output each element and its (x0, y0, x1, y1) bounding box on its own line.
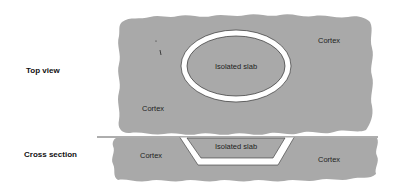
tissue-dot (155, 40, 156, 41)
cross-section-cortex-right-label: Cortex (318, 155, 340, 164)
cross-section-slab-label: Isolated slab (215, 142, 257, 151)
isolated-slab-diagram: Top view Cross section Isolated slab Cor… (0, 0, 396, 190)
top-view-slab-label: Isolated slab (215, 62, 257, 71)
cross-section-cortex-left-label: Cortex (140, 151, 162, 160)
top-view-cortex-label: Cortex (318, 36, 340, 45)
top-view-cortex-label-2: Cortex (142, 104, 164, 113)
diagram-drawing: Isolated slab Cortex Cortex Isolated sla… (0, 0, 396, 190)
